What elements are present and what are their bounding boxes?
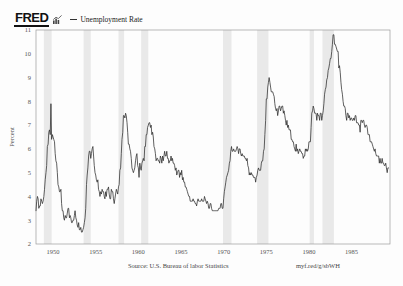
recession-band (141, 30, 148, 244)
x-axis-tick-label: 1970 (217, 248, 230, 255)
recession-band (322, 30, 333, 244)
fred-chart-page: FRED Unemployment Rate 111098765432 1950… (0, 0, 403, 286)
recession-bands-group (44, 30, 334, 244)
y-axis-tick-label: 8 (28, 98, 31, 105)
x-axis-ticks-group: 19501955196019651970197519801985 (47, 248, 359, 255)
recession-band (44, 30, 52, 244)
x-axis-tick-label: 1960 (132, 248, 145, 255)
y-axis-tick-label: 11 (25, 26, 31, 33)
recession-band (84, 30, 91, 244)
x-axis-tick-label: 1980 (302, 248, 315, 255)
recession-band (118, 30, 124, 244)
y-axis-tick-label: 6 (28, 145, 32, 152)
source-note: Source: U.S. Bureau of labor Statistics (128, 262, 229, 269)
y-axis-tick-label: 5 (28, 169, 31, 176)
x-axis-tick-label: 1955 (89, 248, 102, 255)
recession-band (257, 30, 268, 244)
y-axis-tick-label: 7 (28, 121, 32, 128)
x-axis-tick-label: 1985 (345, 248, 358, 255)
y-axis-ticks-group: 111098765432 (25, 26, 32, 247)
y-axis-tick-label: 3 (28, 217, 31, 224)
y-axis-tick-label: 4 (28, 193, 32, 200)
x-axis-tick-label: 1965 (175, 248, 188, 255)
y-axis-tick-label: 10 (25, 50, 32, 57)
y-axis-title: Percent (8, 127, 15, 147)
y-axis-tick-label: 2 (28, 240, 31, 247)
chart-canvas: 111098765432 195019551960196519701975198… (0, 0, 403, 286)
recession-band (223, 30, 232, 244)
y-axis-tick-label: 9 (28, 74, 31, 81)
x-axis-tick-label: 1950 (47, 248, 60, 255)
fred-short-url[interactable]: myf.red/g/sbWH (296, 262, 340, 269)
x-axis-tick-label: 1975 (260, 248, 273, 255)
